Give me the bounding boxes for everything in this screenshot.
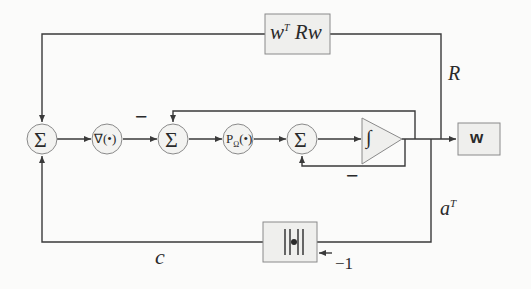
at-base: a (440, 197, 450, 219)
projection-suffix: (•) (239, 131, 252, 146)
sum3-label: Σ (294, 127, 307, 153)
top-loop-line (42, 34, 265, 122)
quadratic-box-label: wT Rw (270, 20, 322, 45)
norm-dot (291, 239, 297, 245)
sum2-label: Σ (165, 127, 178, 153)
sum1-label: Σ (34, 127, 47, 153)
c-label: c (155, 244, 165, 270)
r-label: R (448, 62, 460, 85)
minus-sign-sum3: − (346, 163, 359, 189)
integrator-label: ∫ (366, 126, 371, 149)
quadratic-rest: Rw (290, 20, 322, 44)
output-box-label: w (470, 128, 483, 148)
projection-label: PΩ(•) (226, 131, 252, 149)
minus-sign-sum2: − (135, 104, 148, 130)
r-feedback-line (330, 34, 441, 139)
quadratic-w: w (270, 20, 284, 44)
c-line (42, 156, 263, 242)
gradient-label: ∇(•) (94, 131, 116, 147)
block-diagram-canvas (0, 0, 531, 289)
at-sup: T (450, 197, 456, 209)
at-label: aT (440, 197, 456, 220)
minus-one-label: −1 (335, 254, 353, 274)
